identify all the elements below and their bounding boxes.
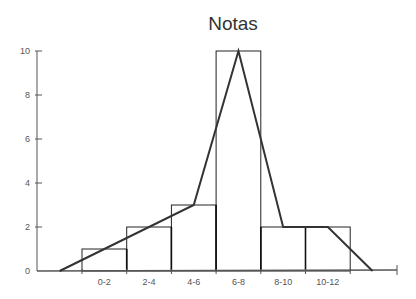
y-tick-label: 8	[25, 90, 30, 100]
y-tick-label: 6	[25, 134, 30, 144]
histogram-bar	[171, 205, 216, 271]
x-tick-label: 2-4	[143, 277, 156, 287]
x-tick-label: 8-10	[274, 277, 292, 287]
x-tick-label: 6-8	[232, 277, 245, 287]
y-tick-label: 0	[25, 266, 30, 276]
histogram-chart: 02468100-22-44-66-88-1010-12	[0, 0, 416, 299]
y-tick-label: 10	[20, 46, 30, 56]
y-tick-label: 4	[25, 178, 30, 188]
histogram-bar	[306, 227, 351, 271]
histogram-bar	[216, 51, 261, 271]
histogram-bar	[261, 227, 306, 271]
x-tick-label: 0-2	[98, 277, 111, 287]
x-tick-label: 10-12	[316, 277, 339, 287]
histogram-bar	[82, 249, 127, 271]
y-tick-label: 2	[25, 222, 30, 232]
x-tick-label: 4-6	[187, 277, 200, 287]
